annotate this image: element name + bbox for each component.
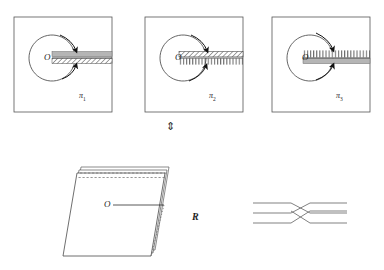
stacked-sheets-graphics [63,167,169,256]
surface-label: R [192,212,199,222]
panel-2-label-sub: 2 [213,96,216,102]
panel-3-label-sub: 3 [340,96,343,102]
panel-3-frame [272,17,370,112]
braid-graphics [253,203,347,223]
panel-3-center-label: O [302,53,309,62]
panel-2-center-label: O [175,53,182,62]
panel-1-arrow-lower [62,66,76,80]
panel-1-gray-band [52,52,112,57]
panel-2-hatched-band [179,52,243,57]
panel-1-graphics [14,17,112,112]
panel-2-comb-teeth [179,58,243,64]
panel-2-graphics [145,17,243,112]
panel-1-hatched-band [52,58,112,63]
figure-svg [0,0,384,270]
panel-1-frame [14,17,112,112]
sheet-front [63,173,165,256]
panel-1-center-label: O [44,53,51,62]
panel-3-label: π3 [336,92,343,102]
panel-1-label-sub: 1 [83,96,86,102]
surface-center-label: O [104,200,111,209]
braid-strand-2 [253,203,347,213]
panel-3-graphics [272,17,370,112]
up-down-double-arrow-icon: ⇕ [166,120,175,133]
panel-2-label: π2 [209,92,216,102]
panel-3-arrow-lower [316,66,333,81]
panel-1-label: π1 [79,92,86,102]
panel-3-gray-band [303,58,370,63]
figure-canvas: O O O π1 π2 π3 ⇕ O R [0,0,384,270]
panel-3-comb-teeth [303,50,370,57]
